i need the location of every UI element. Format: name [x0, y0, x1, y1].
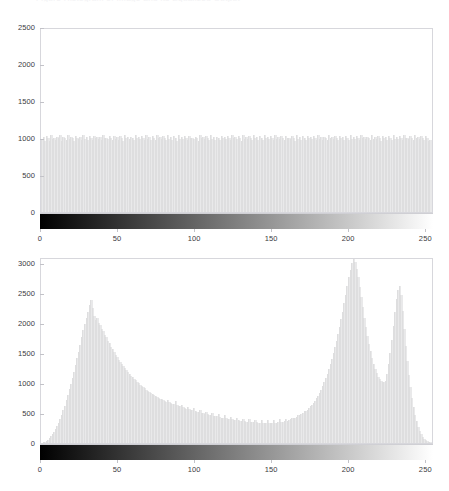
figure-title-clipped: Figure Histogram of Image and its Equali…	[36, 0, 416, 2]
y-tick-mark	[40, 354, 44, 355]
y-tick-mark	[40, 139, 44, 140]
histogram-bars-bottom	[41, 259, 432, 443]
matlab-figure: Figure Histogram of Image and its Equali…	[0, 0, 449, 491]
y-tick-mark	[40, 102, 44, 103]
y-tick-label: 500	[2, 171, 35, 180]
y-tick-mark	[40, 414, 44, 415]
y-tick-label: 2000	[2, 60, 35, 69]
y-tick-label: 1000	[2, 134, 35, 143]
y-tick-label: 0	[2, 439, 35, 448]
axes-equalized-histogram: 05001000150020002500 050100150200250	[40, 28, 433, 213]
y-tick-label: 3000	[2, 259, 35, 268]
plot-area-top	[40, 28, 433, 213]
x-tick-label: 50	[102, 234, 132, 243]
x-tick-label: 250	[410, 465, 440, 474]
x-tick-label: 100	[179, 465, 209, 474]
y-tick-label: 2500	[2, 23, 35, 32]
y-tick-label: 0	[2, 208, 35, 217]
y-tick-label: 1000	[2, 379, 35, 388]
y-tick-mark	[40, 324, 44, 325]
x-tick-label: 0	[25, 234, 55, 243]
x-tick-label: 250	[410, 234, 440, 243]
histogram-bar	[429, 140, 431, 212]
y-tick-label: 2000	[2, 319, 35, 328]
x-tick-label: 200	[333, 234, 363, 243]
x-tick-label: 50	[102, 465, 132, 474]
axes-original-histogram: 050010001500200025003000 050100150200250	[40, 258, 433, 444]
x-tick-label: 150	[256, 465, 286, 474]
x-tick-label: 200	[333, 465, 363, 474]
x-tick-label: 0	[25, 465, 55, 474]
y-tick-mark	[40, 384, 44, 385]
colorbar-bottom	[40, 444, 433, 460]
plot-area-bottom	[40, 258, 433, 444]
y-tick-label: 500	[2, 409, 35, 418]
y-tick-mark	[40, 65, 44, 66]
y-tick-mark	[40, 176, 44, 177]
colorbar-top	[40, 213, 433, 229]
y-tick-mark	[40, 28, 44, 29]
y-tick-label: 1500	[2, 97, 35, 106]
histogram-bars-top	[41, 29, 432, 212]
y-tick-label: 1500	[2, 349, 35, 358]
y-tick-mark	[40, 264, 44, 265]
x-tick-label: 150	[256, 234, 286, 243]
x-tick-label: 100	[179, 234, 209, 243]
y-tick-label: 2500	[2, 289, 35, 298]
y-tick-mark	[40, 294, 44, 295]
